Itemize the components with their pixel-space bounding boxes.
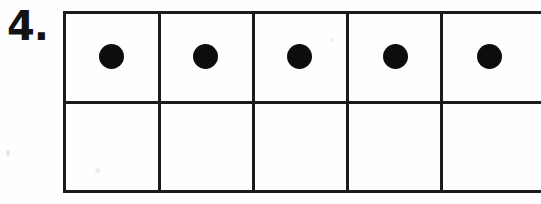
ten-frame-top-row xyxy=(63,11,541,102)
grid-divider-vertical-3 xyxy=(346,11,349,193)
ten-frame-cell-4[interactable] xyxy=(345,11,439,102)
counter-dot-icon xyxy=(287,44,312,69)
scan-artifact xyxy=(95,168,100,173)
scan-artifact xyxy=(6,150,10,156)
ten-frame-cell-8[interactable] xyxy=(251,102,345,193)
ten-frame-cell-10[interactable] xyxy=(439,102,541,193)
grid-divider-vertical-2 xyxy=(252,11,255,193)
grid-divider-middle xyxy=(63,101,541,104)
counter-dot-icon xyxy=(477,44,502,69)
grid-border-bottom xyxy=(63,190,541,193)
counter-dot-icon xyxy=(193,44,218,69)
ten-frame-cell-3[interactable] xyxy=(251,11,345,102)
ten-frame-cell-7[interactable] xyxy=(157,102,251,193)
ten-frame-cell-5[interactable] xyxy=(439,11,541,102)
ten-frame-bottom-row xyxy=(63,102,541,193)
ten-frame-cell-2[interactable] xyxy=(157,11,251,102)
grid-border-left xyxy=(63,11,66,193)
grid-border-top xyxy=(63,11,541,14)
scan-artifact xyxy=(330,38,334,42)
grid-divider-vertical-1 xyxy=(158,11,161,193)
ten-frame-cell-9[interactable] xyxy=(345,102,439,193)
grid-divider-vertical-4 xyxy=(440,11,443,193)
ten-frame-cell-6[interactable] xyxy=(63,102,157,193)
ten-frame-cell-1[interactable] xyxy=(63,11,157,102)
ten-frame-grid xyxy=(63,11,541,193)
problem-number-label: 4. xyxy=(7,3,59,49)
counter-dot-icon xyxy=(383,44,408,69)
counter-dot-icon xyxy=(99,44,124,69)
